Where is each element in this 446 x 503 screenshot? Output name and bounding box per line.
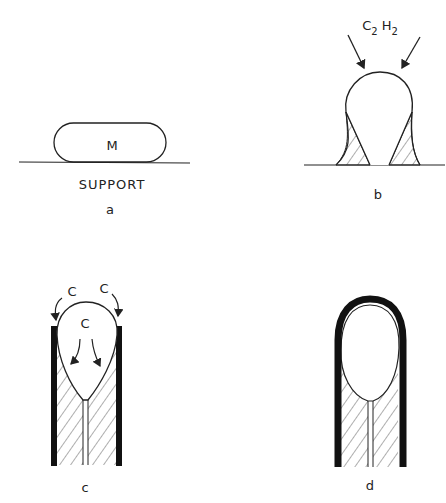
particle-label: M <box>106 139 117 152</box>
diffusion-arrow-outer-right <box>112 294 118 316</box>
caption-b: b <box>374 188 382 201</box>
gas-arrow-left <box>348 35 364 68</box>
gas-label: C2 H2 <box>362 19 398 32</box>
panel-b <box>304 35 445 165</box>
support-label: SUPPORT <box>79 178 146 191</box>
caption-d: d <box>366 479 374 492</box>
caption-c: c <box>81 481 88 494</box>
tube-wall-right <box>116 326 122 466</box>
caption-a: a <box>106 203 114 216</box>
gas-arrow-right <box>402 37 420 68</box>
carbon-label-center: C <box>80 317 89 330</box>
tube-wall-left <box>51 326 57 466</box>
panel-d <box>338 299 403 467</box>
carbon-label-left: C <box>67 285 76 298</box>
carbon-label-right: C <box>99 282 108 295</box>
panel-a <box>19 123 190 163</box>
diagram-canvas <box>0 0 446 503</box>
